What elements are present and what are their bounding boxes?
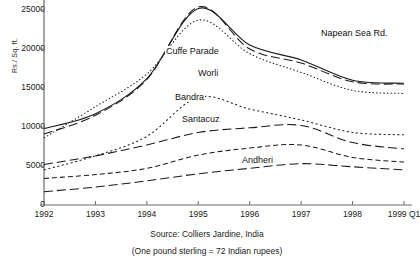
series-label-cuffe-parade: Cuffe Parade bbox=[165, 46, 220, 56]
series-line-andheri-lower bbox=[44, 164, 404, 192]
series-label-santacuz: Santacuz bbox=[181, 114, 221, 124]
series-label-andheri: Andheri bbox=[241, 155, 274, 165]
series-line-santacuz bbox=[44, 125, 404, 165]
series-label-worli: Worli bbox=[197, 68, 219, 78]
series-label-napean-sea-rd: Napean Sea Rd. bbox=[320, 28, 389, 38]
series-line-andheri bbox=[44, 145, 404, 179]
series-line-napean-sea-rd bbox=[44, 8, 404, 129]
series-line-bandra bbox=[44, 96, 404, 170]
series-label-bandra: Bandra bbox=[174, 92, 205, 102]
conversion-note-caption: (One pound sterling = 72 Indian rupees) bbox=[0, 246, 414, 256]
source-caption: Source: Colliers Jardine, India bbox=[0, 229, 414, 239]
series-line-cuffe-parade bbox=[44, 6, 404, 134]
